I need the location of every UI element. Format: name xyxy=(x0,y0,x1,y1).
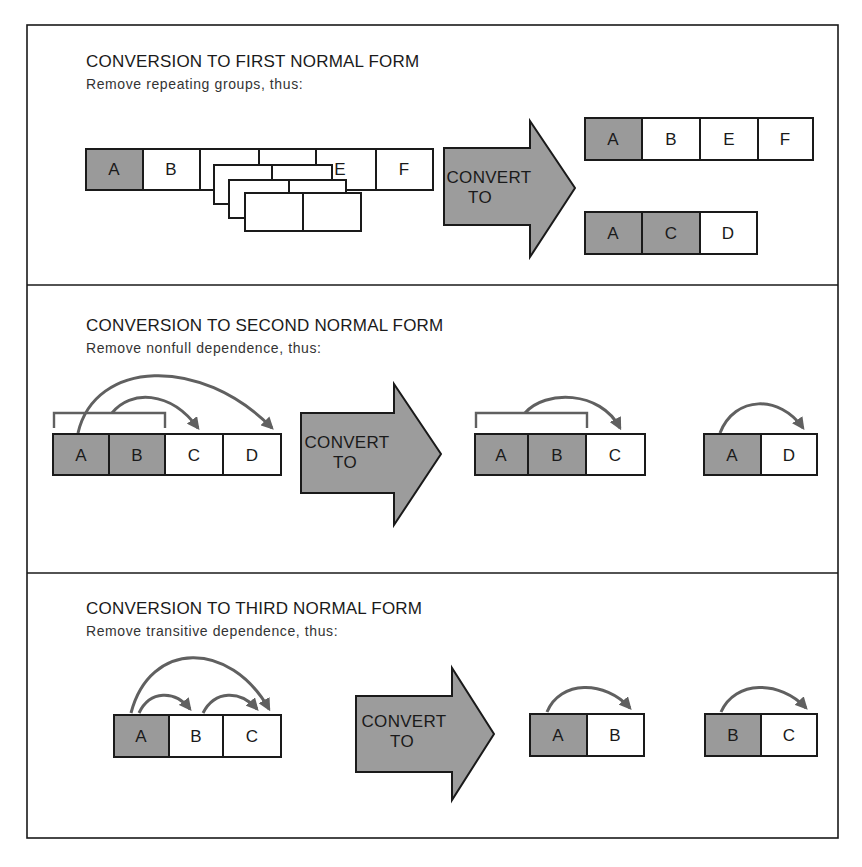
result-relation: A B E F xyxy=(585,118,813,160)
section-subtitle: Remove transitive dependence, thus: xyxy=(86,623,338,639)
svg-text:CONVERT: CONVERT xyxy=(362,712,447,731)
source-relation: A B C D xyxy=(53,376,281,475)
svg-text:A: A xyxy=(75,446,87,465)
unnormalized-record: A B F E xyxy=(86,149,433,231)
result-relation: A B xyxy=(530,687,644,756)
svg-text:B: B xyxy=(190,727,201,746)
svg-text:C: C xyxy=(665,224,677,243)
source-relation: A B C xyxy=(114,658,281,757)
section-title: CONVERSION TO SECOND NORMAL FORM xyxy=(86,316,443,335)
svg-text:E: E xyxy=(723,130,734,149)
svg-text:F: F xyxy=(780,130,790,149)
svg-text:CONVERT: CONVERT xyxy=(305,433,390,452)
svg-text:CONVERT: CONVERT xyxy=(447,168,532,187)
normalization-diagram: CONVERSION TO FIRST NORMAL FORM Remove r… xyxy=(0,0,862,867)
svg-text:C: C xyxy=(783,726,795,745)
svg-text:TO: TO xyxy=(468,188,492,207)
section-title: CONVERSION TO FIRST NORMAL FORM xyxy=(86,52,419,71)
svg-text:B: B xyxy=(609,726,620,745)
svg-text:A: A xyxy=(607,130,619,149)
result-relation: A C D xyxy=(585,212,757,254)
svg-text:A: A xyxy=(495,446,507,465)
svg-text:D: D xyxy=(783,446,795,465)
cell-label: E xyxy=(334,160,345,179)
cell-label: A xyxy=(108,160,120,179)
svg-text:C: C xyxy=(609,446,621,465)
svg-text:B: B xyxy=(665,130,676,149)
result-relation: A D xyxy=(704,404,817,475)
section-second-normal-form: CONVERSION TO SECOND NORMAL FORM Remove … xyxy=(53,316,817,525)
result-relation: A B C xyxy=(475,397,645,475)
section-title: CONVERSION TO THIRD NORMAL FORM xyxy=(86,599,422,618)
section-subtitle: Remove repeating groups, thus: xyxy=(86,76,303,92)
svg-text:A: A xyxy=(726,446,738,465)
svg-text:B: B xyxy=(727,726,738,745)
cell-label: F xyxy=(399,160,409,179)
result-relation: B C xyxy=(705,687,817,756)
cell-label: B xyxy=(165,160,176,179)
svg-text:B: B xyxy=(551,446,562,465)
section-third-normal-form: CONVERSION TO THIRD NORMAL FORM Remove t… xyxy=(86,599,817,800)
svg-text:D: D xyxy=(722,224,734,243)
convert-arrow: CONVERT TO xyxy=(301,384,441,525)
svg-text:A: A xyxy=(607,224,619,243)
svg-text:D: D xyxy=(246,446,258,465)
svg-text:B: B xyxy=(131,446,142,465)
section-first-normal-form: CONVERSION TO FIRST NORMAL FORM Remove r… xyxy=(86,52,813,257)
convert-arrow: CONVERT TO xyxy=(444,121,575,257)
svg-text:A: A xyxy=(552,726,564,745)
svg-text:A: A xyxy=(135,727,147,746)
svg-text:C: C xyxy=(246,727,258,746)
convert-arrow: CONVERT TO xyxy=(356,668,494,800)
svg-text:TO: TO xyxy=(333,453,357,472)
svg-text:C: C xyxy=(188,446,200,465)
svg-text:TO: TO xyxy=(390,732,414,751)
section-subtitle: Remove nonfull dependence, thus: xyxy=(86,340,322,356)
